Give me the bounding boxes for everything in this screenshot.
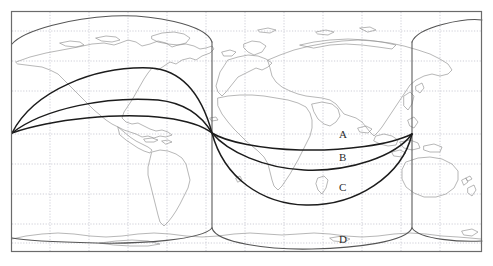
graticule-vertical-lines — [50, 12, 440, 251]
world-map-diagram — [0, 0, 493, 266]
route-label-c: C — [339, 182, 346, 193]
great-circle-routes-figure: A B C D — [0, 0, 493, 266]
route-label-b: B — [339, 152, 346, 163]
figure-frame — [12, 12, 482, 252]
route-label-a: A — [339, 129, 347, 140]
route-label-d: D — [339, 234, 347, 245]
